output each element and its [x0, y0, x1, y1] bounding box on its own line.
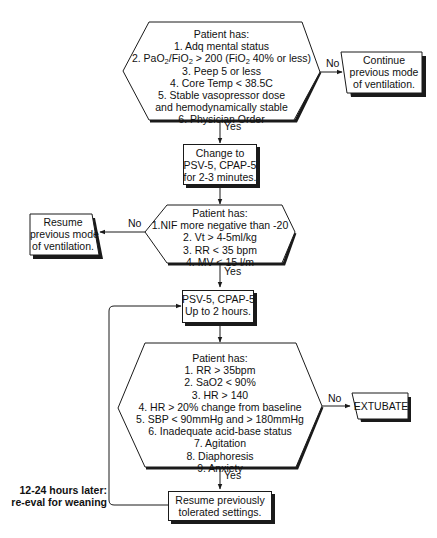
- decision1-title: Patient has:: [123, 28, 320, 40]
- resume-tolerated-line-2: tolerated settings.: [168, 506, 272, 518]
- change-line-3: for 2-3 minutes.: [183, 171, 257, 183]
- decision3-text: Patient has: 1. RR > 35bpm 2. SaO2 < 90%…: [118, 352, 322, 474]
- psv-box-text: PSV-5, CPAP-5 Up to 2 hours.: [182, 293, 254, 317]
- decision1-yes-label: Yes: [224, 120, 241, 132]
- decision2-yes-label: Yes: [224, 265, 241, 277]
- resume-prev-line-3: of ventilation.: [30, 240, 96, 252]
- decision3-item-2: 2. SaO2 < 90%: [118, 376, 322, 388]
- decision3-yes-label: Yes: [224, 469, 241, 481]
- psv-line-1: PSV-5, CPAP-5: [182, 293, 254, 305]
- resume-prev-box-text: Resume previous mode of ventilation.: [30, 216, 96, 253]
- decision2-item-3: 3. RR < 35 bpm: [145, 244, 295, 256]
- decision2-item-4: 4. MV < 15 l/m: [145, 256, 295, 268]
- continue-line-1: Continue: [345, 54, 423, 66]
- decision3-item-5: 5. SBP < 90mmHg and > 180mmHg: [118, 413, 322, 425]
- change-box-text: Change to PSV-5, CPAP-5 for 2-3 minutes.: [183, 147, 257, 184]
- decision2-text: Patient has: 1.NIF more negative than -2…: [145, 207, 295, 268]
- decision3-item-7: 7. Agitation: [118, 437, 322, 449]
- extubate-box-text: EXTUBATE: [352, 400, 410, 412]
- extubate-label: EXTUBATE: [352, 400, 410, 412]
- decision2-item-1: 1.NIF more negative than -20: [145, 219, 295, 231]
- change-line-1: Change to: [183, 147, 257, 159]
- decision3-item-3: 3. HR > 140: [118, 389, 322, 401]
- decision3-item-8: 8. Diaphoresis: [118, 450, 322, 462]
- decision3-no-label: No: [328, 392, 341, 404]
- continue-box-text: Continue previous mode of ventilation.: [345, 54, 423, 91]
- decision1-item-6: 6. Physician Order: [123, 113, 320, 125]
- decision1-item-4: 4. Core Temp < 38.5C: [123, 77, 320, 89]
- decision3-item-4: 4. HR > 20% change from baseline: [118, 401, 322, 413]
- decision1-text: Patient has: 1. Adq mental status 2. PaO…: [123, 28, 320, 126]
- decision2-item-2: 2. Vt > 4-5ml/kg: [145, 231, 295, 243]
- resume-prev-line-1: Resume: [30, 216, 96, 228]
- decision2-title: Patient has:: [145, 207, 295, 219]
- decision2-no-label: No: [128, 217, 141, 229]
- resume-prev-line-2: previous mode: [30, 228, 96, 240]
- loop-note-line-2: re-eval for weaning: [0, 496, 107, 508]
- continue-line-3: of ventilation.: [345, 78, 423, 90]
- continue-line-2: previous mode: [345, 66, 423, 78]
- change-line-2: PSV-5, CPAP-5: [183, 159, 257, 171]
- resume-tolerated-line-1: Resume previously: [168, 494, 272, 506]
- loop-note-line-1: 12-24 hours later:: [0, 484, 107, 496]
- decision1-item-5b: and hemodynamically stable: [123, 101, 320, 113]
- decision3-title: Patient has:: [118, 352, 322, 364]
- decision3-item-6: 6. Inadequate acid-base status: [118, 425, 322, 437]
- decision1-item-1: 1. Adq mental status: [123, 40, 320, 52]
- decision1-item-2: 2. PaO2/FiO2 > 200 (FiO2 40% or less): [123, 52, 320, 64]
- decision1-no-label: No: [326, 57, 339, 69]
- decision3-item-1: 1. RR > 35bpm: [118, 364, 322, 376]
- decision1-item-3: 3. Peep 5 or less: [123, 65, 320, 77]
- decision1-item-5: 5. Stable vasopressor dose: [123, 89, 320, 101]
- loop-note: 12-24 hours later: re-eval for weaning: [0, 484, 107, 508]
- resume-tolerated-box-text: Resume previously tolerated settings.: [168, 494, 272, 518]
- decision3-item-9: 9. Anxiety: [118, 462, 322, 474]
- psv-line-2: Up to 2 hours.: [182, 305, 254, 317]
